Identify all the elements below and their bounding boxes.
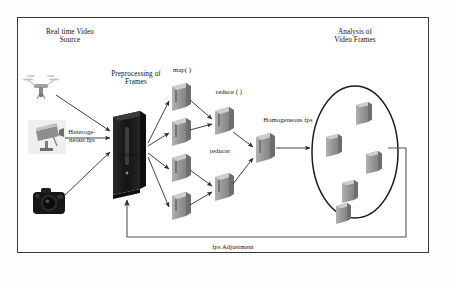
mapper-server-2 xyxy=(172,118,191,146)
analysis-server-3 xyxy=(366,151,382,174)
mapper-server-1 xyxy=(172,83,191,111)
diagram-canvas: Real time Video Source Heteroge- neous f… xyxy=(0,0,449,288)
dslr-camera-icon xyxy=(33,188,65,214)
analysis-server-5 xyxy=(336,203,351,224)
reducer-label: reducer xyxy=(198,147,242,155)
feedback-loop-line xyxy=(127,148,406,237)
reducer-server-2 xyxy=(215,173,234,201)
analysis-heading: Analysis of Video Frames xyxy=(312,28,398,45)
source-heading: Real time Video Source xyxy=(22,28,118,45)
drone-icon xyxy=(23,75,59,99)
aggregator-server xyxy=(256,133,275,163)
arrow-preprocessing-to-mapper-4 xyxy=(148,157,169,207)
analysis-server-1 xyxy=(356,102,372,125)
arrow-mapper-4-to-reducer-2 xyxy=(190,192,212,205)
arrow-dslr-to-preprocessing xyxy=(64,152,110,196)
cctv-camera-icon xyxy=(28,120,66,154)
analysis-server-4 xyxy=(342,180,358,203)
arrow-mapper-3-to-reducer-2 xyxy=(190,170,212,186)
map-function-label: map( ) xyxy=(160,66,204,74)
mapper-server-3 xyxy=(172,154,191,182)
reducer-server-1 xyxy=(215,107,234,135)
fps-adjustment-label: fps Adjustment xyxy=(198,243,268,251)
arrow-reducer-2-to-aggregator xyxy=(233,158,253,184)
arrow-preprocessing-to-mapper-1 xyxy=(148,101,169,143)
homogeneous-fps-label: Homogeneous fps xyxy=(249,116,327,124)
analysis-server-2 xyxy=(326,134,342,157)
heterogeneous-fps-label: Heteroge- neous fps xyxy=(62,128,102,143)
mapper-label: mapper xyxy=(108,150,148,158)
arrow-preprocessing-to-mapper-2 xyxy=(148,133,169,146)
reduce-function-label: reduce ( ) xyxy=(205,88,253,96)
mapper-server-4 xyxy=(172,192,191,220)
arrow-preprocessing-to-mapper-3 xyxy=(148,153,169,169)
arrow-mapper-1-to-reducer-1 xyxy=(190,100,212,119)
arrow-reducer-1-to-aggregator xyxy=(233,132,253,147)
arrow-mapper-2-to-reducer-1 xyxy=(190,124,212,130)
